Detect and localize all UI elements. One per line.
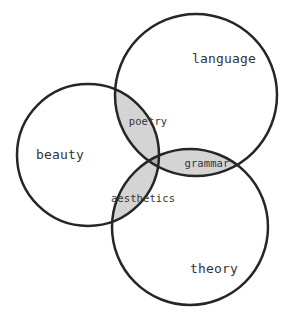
- region-label-poetry: poetry: [129, 115, 168, 127]
- set-label-language: language: [192, 51, 256, 66]
- venn-diagram-canvas: beauty language theory poetry grammar ae…: [0, 0, 293, 326]
- region-label-grammar: grammar: [185, 157, 230, 169]
- region-label-aesthetics: aesthetics: [111, 192, 175, 204]
- set-label-theory: theory: [190, 261, 238, 276]
- venn-diagram-page: beauty language theory poetry grammar ae…: [0, 0, 293, 326]
- set-label-beauty: beauty: [36, 147, 84, 162]
